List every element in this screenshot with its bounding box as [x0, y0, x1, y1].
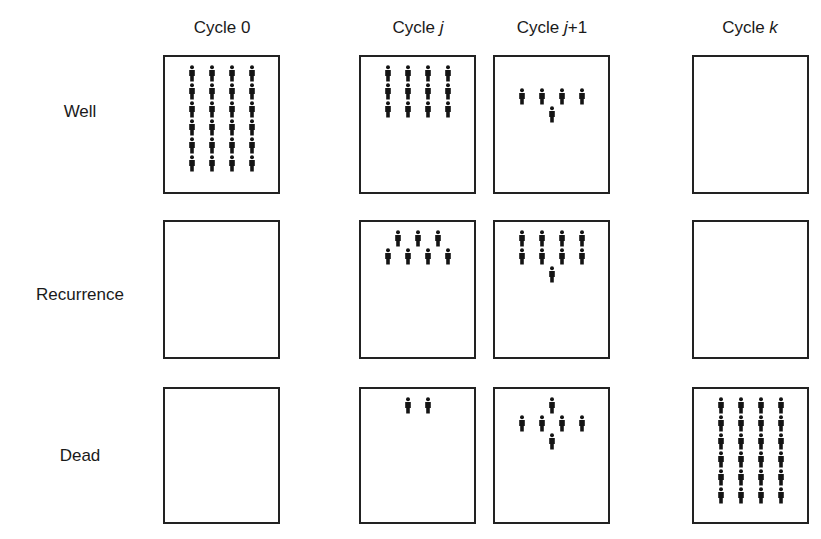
- person-icon: [558, 88, 566, 105]
- person-icon: [384, 65, 392, 82]
- person-icon: [228, 119, 236, 136]
- person-icon: [384, 248, 392, 265]
- person-icon: [444, 83, 452, 100]
- person-icon: [248, 119, 256, 136]
- person-icon: [717, 451, 725, 468]
- person-icon: [777, 415, 785, 432]
- cell-recurrence-cyclek: [692, 220, 809, 359]
- column-header-var: k: [769, 18, 778, 37]
- person-icon: [208, 155, 216, 172]
- person-icon: [384, 101, 392, 118]
- person-icon: [558, 415, 566, 432]
- person-icon: [538, 415, 546, 432]
- person-icon: [188, 137, 196, 154]
- cell-well-cyclej: [359, 55, 476, 194]
- row-label-well: Well: [0, 102, 160, 122]
- person-icon: [248, 155, 256, 172]
- cell-well-cycle0: [163, 55, 280, 194]
- person-icon: [248, 101, 256, 118]
- person-icon: [737, 415, 745, 432]
- person-icon: [777, 433, 785, 450]
- person-icon: [578, 248, 586, 265]
- person-icon: [777, 397, 785, 414]
- person-icon: [384, 83, 392, 100]
- cell-recurrence-cycle0: [163, 220, 280, 359]
- person-icon: [228, 101, 236, 118]
- cell-dead-cyclej: [359, 387, 476, 524]
- person-icon: [548, 106, 556, 123]
- person-icon: [737, 469, 745, 486]
- cell-dead-cyclej1: [493, 387, 610, 524]
- person-icon: [208, 65, 216, 82]
- person-icon: [404, 65, 412, 82]
- person-icon: [548, 397, 556, 414]
- cell-recurrence-cyclej1: [493, 220, 610, 359]
- person-icon: [228, 137, 236, 154]
- person-icon: [248, 65, 256, 82]
- person-icon: [717, 487, 725, 504]
- person-icon: [188, 83, 196, 100]
- person-icon: [444, 65, 452, 82]
- person-icon: [444, 101, 452, 118]
- person-icon: [578, 230, 586, 247]
- cell-dead-cycle0: [163, 387, 280, 524]
- person-icon: [424, 248, 432, 265]
- person-icon: [248, 83, 256, 100]
- person-icon: [717, 415, 725, 432]
- person-icon: [518, 230, 526, 247]
- column-header-var: j: [440, 18, 444, 37]
- person-icon: [578, 88, 586, 105]
- person-icon: [548, 433, 556, 450]
- person-icon: [404, 397, 412, 414]
- person-icon: [424, 65, 432, 82]
- person-icon: [757, 451, 765, 468]
- person-icon: [737, 451, 745, 468]
- person-icon: [228, 83, 236, 100]
- person-icon: [434, 230, 442, 247]
- cell-recurrence-cyclej: [359, 220, 476, 359]
- person-icon: [558, 248, 566, 265]
- person-icon: [538, 230, 546, 247]
- person-icon: [717, 469, 725, 486]
- person-icon: [717, 433, 725, 450]
- person-icon: [578, 415, 586, 432]
- person-icon: [424, 83, 432, 100]
- person-icon: [414, 230, 422, 247]
- person-icon: [228, 65, 236, 82]
- person-icon: [757, 397, 765, 414]
- column-header-var: 0: [241, 18, 250, 37]
- person-icon: [737, 433, 745, 450]
- person-icon: [188, 101, 196, 118]
- person-icon: [757, 487, 765, 504]
- person-icon: [404, 83, 412, 100]
- cell-well-cyclej1: [493, 55, 610, 194]
- person-icon: [518, 415, 526, 432]
- person-icon: [248, 137, 256, 154]
- cell-well-cyclek: [692, 55, 809, 194]
- person-icon: [208, 137, 216, 154]
- person-icon: [558, 230, 566, 247]
- cell-dead-cyclek: [692, 387, 809, 524]
- column-header-cycle-j: Cycle j: [348, 18, 488, 38]
- person-icon: [737, 487, 745, 504]
- person-icon: [404, 101, 412, 118]
- column-header-prefix: Cycle: [517, 18, 564, 37]
- row-label-dead: Dead: [0, 446, 160, 466]
- person-icon: [188, 65, 196, 82]
- person-icon: [424, 101, 432, 118]
- person-icon: [394, 230, 402, 247]
- person-icon: [737, 397, 745, 414]
- column-header-suffix: +1: [568, 18, 587, 37]
- person-icon: [717, 397, 725, 414]
- person-icon: [208, 119, 216, 136]
- person-icon: [228, 155, 236, 172]
- column-header-prefix: Cycle: [392, 18, 439, 37]
- person-icon: [757, 469, 765, 486]
- column-header-cycle-0: Cycle 0: [152, 18, 292, 38]
- person-icon: [188, 119, 196, 136]
- person-icon: [538, 88, 546, 105]
- column-header-cycle-k: Cycle k: [680, 18, 820, 38]
- column-header-prefix: Cycle: [722, 18, 769, 37]
- person-icon: [444, 248, 452, 265]
- person-icon: [777, 487, 785, 504]
